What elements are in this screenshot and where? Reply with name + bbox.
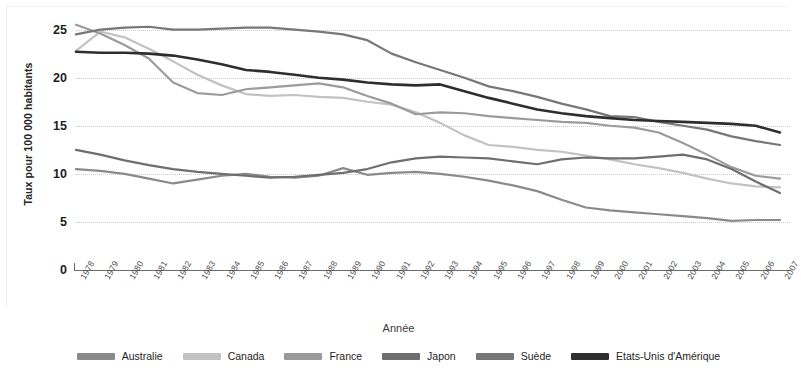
y-axis-tick-label: 15 <box>53 119 67 133</box>
data-lines <box>76 20 790 270</box>
plot-area: 0510152025 <box>76 20 790 270</box>
chart-legend: AustralieCanadaFranceJaponSuèdeEtats-Uni… <box>0 350 797 362</box>
x-axis-title: Année <box>0 322 797 334</box>
legend-swatch-icon <box>77 353 115 360</box>
series-line <box>76 32 780 188</box>
legend-swatch-icon <box>183 353 221 360</box>
legend-label: Canada <box>228 350 265 362</box>
y-axis-tick-label: 20 <box>53 71 67 85</box>
series-line <box>76 52 780 133</box>
legend-item[interactable]: Canada <box>183 350 265 362</box>
legend-swatch-icon <box>571 353 609 360</box>
legend-item[interactable]: France <box>284 350 362 362</box>
y-axis-origin-tick <box>74 263 75 271</box>
legend-label: France <box>329 350 362 362</box>
y-axis-title: Taux pour 100 000 habitants <box>22 24 34 244</box>
legend-label: Australie <box>122 350 163 362</box>
legend-label: Etats-Unis d'Amérique <box>616 350 720 362</box>
legend-swatch-icon <box>476 353 514 360</box>
legend-swatch-icon <box>382 353 420 360</box>
figure-border-left <box>6 6 7 306</box>
y-axis-tick-label: 10 <box>53 167 67 181</box>
x-axis-ticks: 1978197919801981198219831984198519861987… <box>76 274 790 320</box>
y-axis-tick-label: 5 <box>60 215 67 229</box>
series-line <box>76 168 780 221</box>
legend-item[interactable]: Australie <box>77 350 163 362</box>
legend-item[interactable]: Suède <box>476 350 551 362</box>
legend-label: Japon <box>427 350 456 362</box>
y-axis-tick-label: 0 <box>60 263 67 277</box>
legend-item[interactable]: Japon <box>382 350 456 362</box>
legend-swatch-icon <box>284 353 322 360</box>
legend-item[interactable]: Etats-Unis d'Amérique <box>571 350 720 362</box>
figure-border-top <box>6 6 786 7</box>
legend-label: Suède <box>521 350 551 362</box>
y-axis-tick-label: 25 <box>53 23 67 37</box>
